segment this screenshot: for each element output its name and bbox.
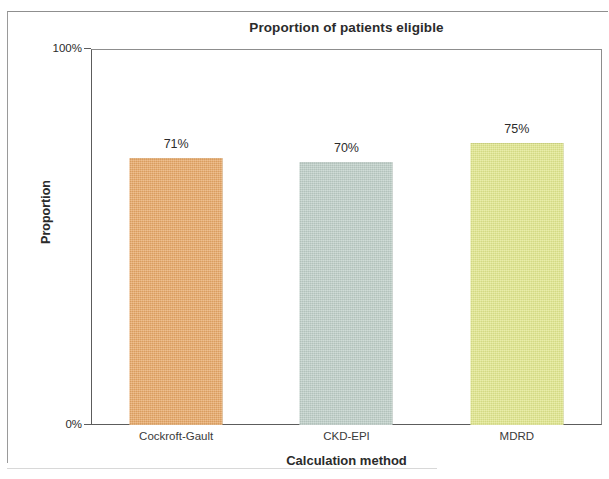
bar [300, 162, 393, 425]
x-axis-category-label: MDRD [432, 430, 602, 442]
bar [130, 158, 223, 425]
bar-value-label: 75% [504, 122, 529, 136]
y-axis-title: Proportion [39, 152, 53, 272]
chart-title: Proportion of patients eligible [91, 20, 602, 35]
y-axis-tick-label-bottom: 0% [38, 418, 82, 430]
y-axis-tick-top [84, 48, 91, 49]
figure-root: Proportion of patients eligible Proporti… [0, 0, 609, 479]
x-axis-title: Calculation method [91, 453, 602, 468]
bar-group: 71% [91, 49, 261, 425]
bar-value-label: 71% [164, 137, 189, 151]
bar-group: 70% [261, 49, 431, 425]
y-axis-tick-label-top: 100% [38, 42, 82, 54]
bar [470, 143, 563, 425]
scan-page-frame-bottom-rule [7, 468, 437, 469]
x-axis-category-label: Cockroft-Gault [91, 430, 261, 442]
bar-group: 75% [432, 49, 602, 425]
y-axis-tick-bottom [84, 424, 91, 425]
bar-value-label: 70% [334, 141, 359, 155]
x-axis-category-label: CKD-EPI [261, 430, 431, 442]
